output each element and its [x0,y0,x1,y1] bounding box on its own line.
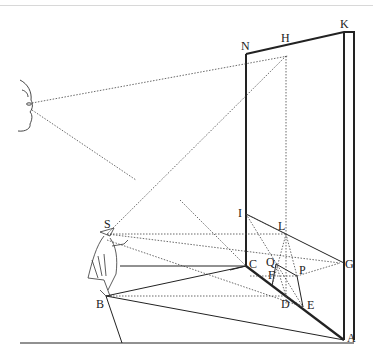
label-I: I [238,206,242,220]
label-B: B [96,297,104,311]
label-P: P [299,263,306,277]
label-A: A [347,331,356,345]
label-E: E [307,298,314,312]
label-Q: Q [266,255,275,269]
label-N: N [241,39,250,53]
label-H: H [281,31,290,45]
sight-lines [32,56,340,307]
label-D: D [281,297,290,311]
label-S: S [104,217,111,231]
eye-profile-icon [18,80,32,131]
label-G: G [345,257,354,271]
label-L: L [278,219,285,233]
label-C: C [249,257,257,271]
ground-lines [20,214,354,343]
perspective-diagram: N H K S I L C Q F P G D E B A [0,0,373,358]
label-K: K [340,17,349,31]
label-F: F [268,268,275,282]
standing-figure-icon [88,228,128,296]
